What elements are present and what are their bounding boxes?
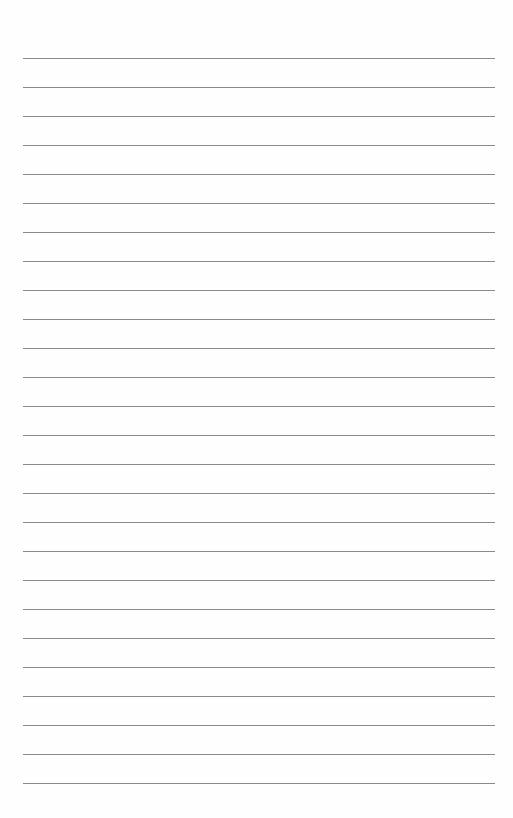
ruled-line (23, 377, 495, 378)
ruled-line (23, 406, 495, 407)
ruled-line (23, 87, 495, 88)
ruled-line (23, 435, 495, 436)
ruled-line (23, 609, 495, 610)
ruled-line (23, 522, 495, 523)
ruled-line (23, 580, 495, 581)
ruled-line (23, 551, 495, 552)
ruled-line (23, 290, 495, 291)
ruled-line (23, 232, 495, 233)
ruled-line (23, 348, 495, 349)
ruled-line (23, 638, 495, 639)
ruled-line (23, 319, 495, 320)
ruled-line (23, 203, 495, 204)
ruled-line (23, 58, 495, 59)
ruled-line (23, 261, 495, 262)
ruled-line (23, 725, 495, 726)
ruled-line (23, 464, 495, 465)
ruled-line (23, 493, 495, 494)
ruled-line (23, 754, 495, 755)
ruled-line (23, 145, 495, 146)
ruled-line (23, 783, 495, 784)
ruled-line (23, 174, 495, 175)
ruled-line (23, 667, 495, 668)
ruled-line (23, 116, 495, 117)
lined-paper-page (0, 0, 513, 818)
ruled-line (23, 696, 495, 697)
